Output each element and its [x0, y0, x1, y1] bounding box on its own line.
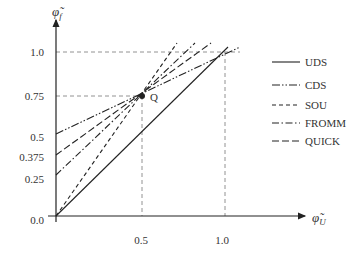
legend-sou: SOU	[305, 99, 327, 111]
y-tick-0.25: 0.25	[25, 173, 45, 185]
legend-cds: CDS	[305, 79, 326, 91]
y-tick-0.75: 0.75	[25, 90, 45, 102]
y-tick-0.0: 0.0	[30, 214, 44, 226]
diagram: Q 1.0 0.75 0.5 0.375 0.25 0.0 0.5 1.0 φ̃…	[0, 0, 362, 257]
x-tick-0.5: 0.5	[134, 234, 148, 246]
legend	[272, 62, 300, 141]
series-cds	[56, 47, 240, 134]
series-quick	[56, 43, 211, 155]
point-q-label: Q	[150, 91, 158, 103]
legend-fromm: FROMM	[305, 117, 346, 129]
legend-uds: UDS	[305, 56, 327, 68]
series-fromm	[56, 43, 195, 175]
guide-lines	[56, 52, 240, 216]
legend-quick: QUICK	[305, 135, 340, 147]
x-axis-label: φ̃U	[312, 210, 326, 227]
point-q	[139, 93, 145, 99]
x-tick-1.0: 1.0	[215, 234, 229, 246]
y-tick-1.0: 1.0	[30, 46, 44, 58]
y-tick-0.375: 0.375	[19, 151, 44, 163]
y-axis-label: φ̃f	[52, 4, 65, 21]
y-tick-0.5: 0.5	[30, 131, 44, 143]
series-sou	[56, 43, 177, 216]
